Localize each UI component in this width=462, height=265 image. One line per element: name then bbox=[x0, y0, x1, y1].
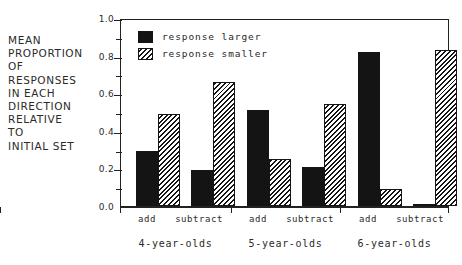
bar-6yo-add-response-smaller bbox=[380, 189, 402, 206]
y-tick-label-0.4: 0.4 bbox=[88, 127, 114, 137]
legend-swatch-solid-icon bbox=[138, 31, 153, 43]
x-axis-separator-tick bbox=[120, 207, 121, 213]
bar-4yo-subtract-response-smaller bbox=[213, 82, 235, 206]
x-tick-label-6yo-subtract: subtract bbox=[387, 214, 453, 224]
legend-item-response-smaller: response smaller bbox=[138, 45, 268, 62]
x-axis-separator-tick bbox=[340, 207, 341, 213]
y-axis-title-line: OF bbox=[8, 60, 94, 73]
y-tick-major bbox=[114, 133, 122, 134]
y-tick-label-0.0: 0.0 bbox=[88, 202, 114, 212]
bar-5yo-subtract-response-larger bbox=[302, 167, 324, 206]
y-axis-title-line: MEAN bbox=[8, 34, 94, 47]
bar-4yo-add-response-smaller bbox=[158, 114, 180, 206]
bar-chart-figure: MEAN PROPORTION OF RESPONSES IN EACH DIR… bbox=[0, 0, 462, 265]
y-tick-major bbox=[114, 170, 122, 171]
y-axis-title-line: DIRECTION bbox=[8, 100, 94, 113]
x-axis-line bbox=[120, 207, 449, 208]
x-axis-separator-tick bbox=[448, 207, 449, 213]
bar-4yo-subtract-response-larger bbox=[191, 170, 213, 206]
y-axis-title-line: RESPONSES bbox=[8, 74, 94, 87]
x-group-label-4-year-olds: 4-year-olds bbox=[120, 238, 231, 249]
x-axis-separator-tick bbox=[231, 207, 232, 213]
y-tick-label-1.0: 1.0 bbox=[88, 14, 114, 24]
y-tick-major bbox=[114, 95, 122, 96]
x-tick-label-5yo-subtract: subtract bbox=[277, 214, 343, 224]
bar-5yo-subtract-response-smaller bbox=[324, 104, 346, 206]
bar-6yo-subtract-response-larger bbox=[413, 204, 435, 206]
legend-label-response-smaller: response smaller bbox=[162, 48, 268, 59]
bar-6yo-add-response-larger bbox=[358, 52, 380, 206]
y-axis-title-line: INITIAL SET bbox=[8, 140, 94, 153]
y-tick-label-0.2: 0.2 bbox=[88, 164, 114, 174]
x-tick-label-4yo-subtract: subtract bbox=[166, 214, 232, 224]
y-axis-title-line: RELATIVE bbox=[8, 113, 94, 126]
y-tick-label-0.8: 0.8 bbox=[88, 52, 114, 62]
y-axis-title-line: PROPORTION bbox=[8, 47, 94, 60]
y-tick-minor bbox=[116, 39, 122, 40]
plot-inner: response larger response smaller bbox=[121, 20, 448, 206]
legend-label-response-larger: response larger bbox=[162, 31, 261, 42]
y-tick-minor bbox=[116, 114, 122, 115]
bar-4yo-add-response-larger bbox=[136, 151, 158, 206]
y-tick-minor bbox=[116, 76, 122, 77]
bar-6yo-subtract-response-smaller bbox=[435, 50, 457, 206]
legend-item-response-larger: response larger bbox=[138, 28, 268, 45]
y-tick-label-0.6: 0.6 bbox=[88, 89, 114, 99]
bar-5yo-add-response-larger bbox=[247, 110, 269, 206]
y-axis-title-line: TO bbox=[8, 126, 94, 139]
y-tick-minor bbox=[116, 152, 122, 153]
y-tick-major bbox=[114, 58, 122, 59]
y-axis-title-line: IN EACH bbox=[8, 87, 94, 100]
bar-5yo-add-response-smaller bbox=[269, 159, 291, 206]
plot-area: response larger response smaller bbox=[120, 19, 449, 207]
x-group-label-5-year-olds: 5-year-olds bbox=[231, 238, 340, 249]
legend: response larger response smaller bbox=[138, 28, 268, 62]
x-group-label-6-year-olds: 6-year-olds bbox=[340, 238, 449, 249]
y-tick-minor bbox=[116, 189, 122, 190]
y-axis-title: MEAN PROPORTION OF RESPONSES IN EACH DIR… bbox=[8, 34, 94, 153]
legend-swatch-hatch-icon bbox=[138, 48, 153, 60]
y-tick-major bbox=[114, 20, 122, 21]
